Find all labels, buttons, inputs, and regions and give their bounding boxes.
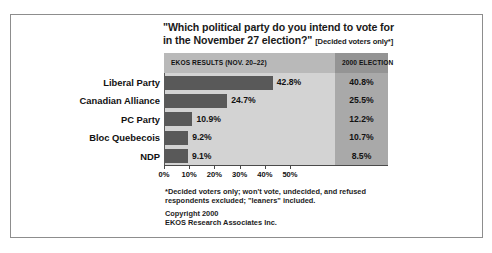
bar-value-label: 9.1% bbox=[192, 151, 212, 161]
bar-value-label: 9.2% bbox=[192, 132, 212, 142]
x-axis-tick-label: 50% bbox=[282, 170, 297, 179]
copyright-line-2: EKOS Research Associates Inc. bbox=[165, 218, 465, 227]
x-axis-tick-label: 30% bbox=[232, 170, 247, 179]
x-axis-tick-label: 40% bbox=[257, 170, 272, 179]
column-header-election: 2000 ELECTION bbox=[342, 59, 393, 66]
copyright-text: Copyright 2000 EKOS Research Associates … bbox=[165, 209, 465, 227]
footnote-line-1: *Decided voters only; won't vote, undeci… bbox=[165, 187, 465, 196]
bar bbox=[165, 131, 188, 145]
chart-title-line-2-text: in the November 27 election?" bbox=[163, 34, 312, 46]
chart-row: 42.8%40.8% bbox=[164, 75, 388, 91]
chart-row: 10.9%12.2% bbox=[164, 111, 388, 127]
x-axis-tick bbox=[265, 165, 266, 169]
category-label: PC Party bbox=[10, 114, 160, 125]
election-value-label: 12.2% bbox=[335, 114, 388, 124]
chart-row: 9.1%8.5% bbox=[164, 148, 388, 164]
category-label: NDP bbox=[10, 151, 160, 162]
category-label: Bloc Quebecois bbox=[10, 132, 160, 143]
bar-value-label: 10.9% bbox=[196, 114, 220, 124]
bar bbox=[165, 94, 227, 108]
election-value-label: 8.5% bbox=[335, 151, 388, 161]
election-value-label: 10.7% bbox=[335, 132, 388, 142]
chart-row: 9.2%10.7% bbox=[164, 130, 388, 146]
x-axis-tick-label: 10% bbox=[182, 170, 197, 179]
chart-frame: "Which political party do you intend to … bbox=[10, 14, 483, 238]
chart-row: 24.7%25.5% bbox=[164, 93, 388, 109]
chart-title: "Which political party do you intend to … bbox=[163, 21, 473, 48]
election-value-label: 25.5% bbox=[335, 95, 388, 105]
bar-value-label: 24.7% bbox=[231, 95, 255, 105]
category-label: Canadian Alliance bbox=[10, 95, 160, 106]
bar bbox=[165, 76, 273, 90]
bar-value-label: 42.8% bbox=[277, 77, 301, 87]
x-axis-tick bbox=[240, 165, 241, 169]
x-axis-tick-label: 0% bbox=[159, 170, 170, 179]
footnote-line-2: respondents excluded; "leaners" included… bbox=[165, 196, 465, 205]
election-value-label: 40.8% bbox=[335, 77, 388, 87]
x-axis-tick bbox=[189, 165, 190, 169]
chart-title-line-1: "Which political party do you intend to … bbox=[163, 21, 473, 34]
x-axis-line bbox=[164, 165, 388, 166]
bar bbox=[165, 149, 188, 163]
category-axis-labels: Liberal PartyCanadian AlliancePC PartyBl… bbox=[11, 53, 160, 165]
x-axis-tick bbox=[164, 165, 165, 169]
bar-chart-plot: EKOS RESULTS (NOV. 20–22) 2000 ELECTION … bbox=[164, 53, 388, 165]
chart-title-line-2: in the November 27 election?" [Decided v… bbox=[163, 34, 473, 48]
footnote-text: *Decided voters only; won't vote, undeci… bbox=[165, 187, 465, 205]
copyright-line-1: Copyright 2000 bbox=[165, 209, 465, 218]
bar bbox=[165, 112, 192, 126]
x-axis-tick bbox=[214, 165, 215, 169]
x-axis-tick-label: 20% bbox=[207, 170, 222, 179]
chart-title-note: [Decided voters only*] bbox=[315, 37, 393, 46]
category-label: Liberal Party bbox=[10, 77, 160, 88]
column-header-ekos: EKOS RESULTS (NOV. 20–22) bbox=[171, 59, 267, 66]
x-axis-tick bbox=[290, 165, 291, 169]
